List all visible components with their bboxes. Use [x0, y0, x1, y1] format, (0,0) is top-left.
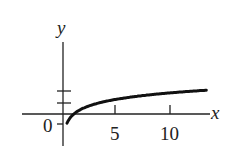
x-tick-label-5: 5	[110, 124, 120, 143]
x-axis-label: x	[211, 103, 219, 122]
ln-curve	[67, 90, 206, 123]
x-tick-label-10: 10	[160, 124, 179, 143]
y-axis-label: y	[57, 18, 65, 37]
origin-label: 0	[43, 116, 53, 135]
